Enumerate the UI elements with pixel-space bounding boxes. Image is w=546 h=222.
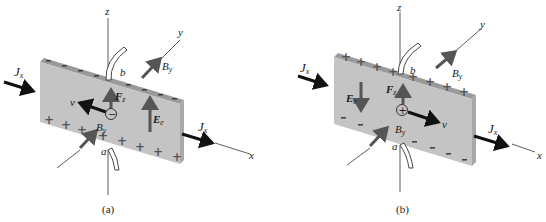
- carrier-sign: −: [108, 109, 116, 120]
- probe-b-label: b: [410, 64, 416, 76]
- charge-minus: [376, 131, 381, 133]
- charge-minus: [358, 124, 363, 126]
- x-axis-label: x: [248, 149, 254, 161]
- b-field-back-label: By: [162, 60, 173, 74]
- probe-a-label: a: [101, 145, 107, 157]
- charge-plus: +: [117, 134, 127, 148]
- b-field-back-arrow: [142, 59, 160, 78]
- hall-effect-figure: z y x + + + + + + +: [0, 0, 546, 222]
- charge-minus: [142, 89, 147, 91]
- charge-plus: +: [61, 118, 71, 132]
- y-axis-lower: [57, 150, 80, 168]
- charge-minus: [126, 84, 131, 86]
- charge-plus: +: [44, 113, 54, 127]
- charge-plus: +: [77, 123, 87, 137]
- velocity-label: v: [442, 118, 447, 130]
- velocity-label: v: [70, 96, 75, 108]
- z-axis-label: z: [104, 5, 110, 17]
- probe-a: [108, 148, 119, 170]
- charge-minus: [412, 141, 417, 143]
- plate-side-edge: [472, 95, 476, 166]
- current-out-label: Jx: [198, 119, 208, 135]
- charge-minus: [94, 75, 99, 77]
- charge-plus: +: [172, 150, 182, 164]
- charge-plus: +: [135, 140, 145, 154]
- charge-plus: +: [153, 145, 163, 159]
- charge-plus: +: [442, 80, 452, 94]
- current-in-arrow: [4, 82, 33, 91]
- b-field-back-label: By: [452, 67, 463, 81]
- b-field-back-arrow: [436, 52, 455, 68]
- y-axis-label: y: [177, 26, 183, 38]
- charge-minus: [172, 98, 177, 100]
- charge-plus: +: [425, 75, 435, 89]
- panel-a: z y x + + + + + + +: [4, 5, 254, 216]
- carrier-sign: +: [399, 105, 407, 116]
- charge-plus: +: [372, 60, 382, 74]
- charge-minus: [158, 94, 163, 96]
- current-in-arrow: [298, 76, 326, 85]
- charge-minus: [462, 159, 467, 161]
- probe-b-label: b: [120, 66, 126, 78]
- current-out-label: Jx: [488, 121, 498, 137]
- current-in-label: Jx: [300, 60, 310, 76]
- charge-minus: [46, 60, 51, 62]
- x-axis: [215, 143, 250, 154]
- current-in-label: Jx: [14, 64, 24, 80]
- charge-plus: +: [341, 50, 351, 64]
- y-axis-lower: [347, 148, 370, 165]
- panel-b-caption: (b): [396, 203, 409, 216]
- charge-minus: [446, 153, 451, 155]
- x-axis: [512, 144, 535, 152]
- charge-plus: +: [459, 85, 469, 99]
- panel-b: z y x + + + + + + + +: [298, 1, 542, 216]
- charge-plus: +: [388, 65, 398, 79]
- charge-minus: [341, 117, 346, 119]
- probe-a-label: a: [392, 140, 398, 152]
- panel-a-caption: (a): [102, 203, 115, 216]
- z-axis-label: z: [396, 1, 402, 13]
- charge-minus: [430, 147, 435, 149]
- current-out-arrow: [474, 136, 507, 146]
- current-out-arrow: [182, 134, 212, 143]
- charge-plus: +: [356, 55, 366, 69]
- x-axis-label: x: [536, 149, 542, 161]
- charge-minus: [62, 65, 67, 67]
- y-axis-label: y: [479, 18, 485, 30]
- charge-minus: [78, 70, 83, 72]
